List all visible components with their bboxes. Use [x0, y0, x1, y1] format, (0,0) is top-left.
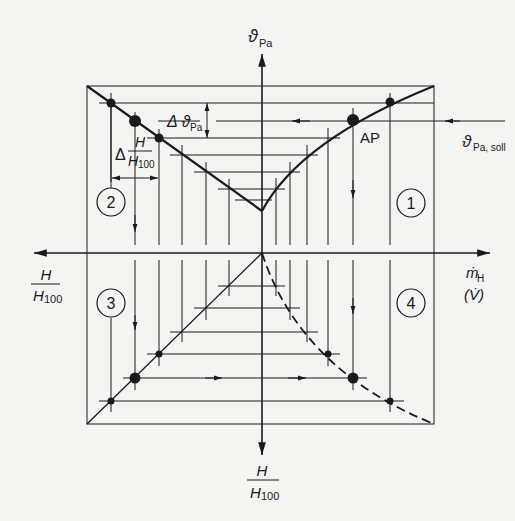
data-points	[107, 98, 395, 405]
svg-text:4: 4	[407, 295, 416, 312]
y-down-axis-label: H H 100	[247, 462, 279, 502]
x-right-axis-label: ṁ H (V̇)	[464, 264, 484, 303]
svg-text:ϑ: ϑ	[462, 132, 472, 151]
svg-text:1: 1	[407, 195, 416, 212]
svg-text:3: 3	[107, 295, 116, 312]
quadrant-1-badge: 1	[397, 189, 425, 217]
svg-text:100: 100	[44, 293, 62, 305]
svg-text:100: 100	[138, 159, 155, 170]
svg-text:2: 2	[107, 194, 116, 211]
svg-text:H: H	[257, 462, 268, 479]
svg-text:(V̇): (V̇)	[464, 286, 484, 303]
four-quadrant-nomogram: 1 2 3 4 ϑ Pa ṁ H (V̇) H H 100 H H 100 Δ …	[0, 0, 515, 521]
flow-arrows	[135, 121, 460, 378]
grid-bottom-horizontals	[99, 286, 404, 401]
quadrant-3-badge: 3	[97, 289, 125, 317]
svg-text:Pa: Pa	[190, 122, 203, 133]
svg-text:Pa, soll: Pa, soll	[473, 142, 506, 153]
operating-point-label: AP	[360, 129, 380, 146]
svg-text:Δ: Δ	[115, 146, 126, 163]
svg-text:100: 100	[261, 490, 279, 502]
quadrant-4-curve	[262, 253, 434, 424]
svg-text:H: H	[41, 266, 52, 283]
svg-text:Δ ϑ: Δ ϑ	[166, 113, 192, 130]
grid-top-horizontals	[99, 103, 505, 200]
y-up-axis-label: ϑ Pa	[248, 26, 273, 49]
svg-text:ϑ: ϑ	[248, 26, 259, 46]
quadrant-4-badge: 4	[397, 289, 425, 317]
svg-text:H: H	[477, 273, 484, 284]
quadrant-2-badge: 2	[97, 188, 125, 216]
svg-text:H: H	[135, 134, 146, 150]
delta-theta-label: Δ ϑ Pa	[166, 113, 203, 133]
x-left-axis-label: H H 100	[31, 266, 62, 305]
svg-text:Pa: Pa	[259, 37, 273, 49]
operating-point-marker	[347, 114, 359, 126]
svg-text:H: H	[250, 484, 261, 501]
svg-text:H: H	[33, 287, 44, 304]
quadrant-1-curve	[262, 86, 434, 211]
setpoint-label: ϑ Pa, soll	[462, 132, 506, 153]
grid-bottom-verticals	[111, 260, 390, 412]
